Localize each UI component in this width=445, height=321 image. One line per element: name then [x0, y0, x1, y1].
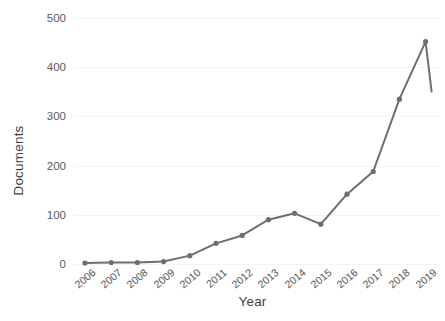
data-point: [397, 97, 402, 102]
x-axis-tick-label: 2007: [98, 266, 124, 290]
data-point: [371, 169, 376, 174]
y-axis-tick-label: 500: [47, 12, 66, 24]
y-axis-tick-label: 200: [47, 160, 66, 172]
data-point: [135, 260, 140, 265]
x-axis-tick-label: 2016: [334, 266, 360, 290]
data-point: [344, 192, 349, 197]
y-axis-title: Documents: [0, 0, 36, 321]
x-axis-tick-label: 2013: [255, 266, 281, 290]
x-axis-tick-label: 2012: [229, 266, 255, 290]
data-point: [240, 233, 245, 238]
data-point: [82, 260, 87, 265]
y-axis-tick-label: 300: [47, 110, 66, 122]
x-axis-tick-label: 2008: [124, 266, 150, 290]
y-axis-tick-label: 400: [47, 61, 66, 73]
x-axis-tick-label: 2010: [177, 266, 203, 290]
line-series-svg: [73, 18, 441, 264]
data-point: [318, 222, 323, 227]
data-point-markers: [82, 39, 428, 266]
trend-line: [85, 42, 426, 263]
chart-container: Documents 0100200300400500 2006200720082…: [0, 0, 445, 321]
y-axis-tick-label: 100: [47, 209, 66, 221]
data-point: [109, 260, 114, 265]
x-axis-title: Year: [60, 294, 445, 309]
x-axis-tick-label: 2006: [72, 266, 98, 290]
x-axis-tick-label: 2011: [204, 266, 229, 290]
data-point: [292, 211, 297, 216]
x-axis-tick-label: 2015: [308, 266, 334, 290]
plot-area: 0100200300400500 20062007200820092010201…: [73, 18, 441, 264]
y-axis-tick-label: 0: [60, 258, 66, 270]
x-axis-tick-label: 2014: [282, 266, 308, 290]
data-point: [423, 39, 428, 44]
line-tail-stub: [426, 42, 432, 92]
x-axis-tick-label: 2009: [151, 266, 177, 290]
x-axis-tick-label: 2019: [413, 266, 439, 290]
x-axis-tick-label: 2017: [360, 266, 386, 290]
gridline: [73, 264, 441, 265]
data-point: [187, 253, 192, 258]
data-point: [213, 241, 218, 246]
data-point: [161, 259, 166, 264]
x-axis-tick-label: 2018: [386, 266, 412, 290]
data-point: [266, 217, 271, 222]
